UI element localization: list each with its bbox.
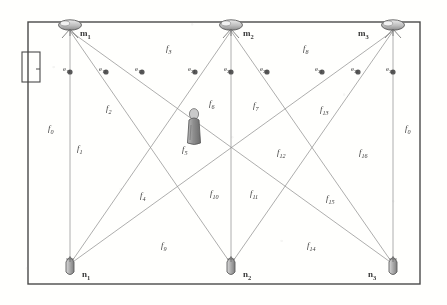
- node-icon-n3: [389, 256, 397, 275]
- edge-label-e13: e13: [135, 66, 143, 75]
- region-label-f1: f1: [77, 144, 82, 155]
- edge-label-e21: e21: [188, 66, 196, 75]
- camera-icon-m1: [59, 20, 82, 38]
- person-figure: [188, 109, 201, 145]
- figure-canvas: m1 m2 m3 n1 n2 n3 e11 e12 e13 e21 e22 e2…: [0, 0, 447, 305]
- region-label-f0-left: f0: [48, 124, 53, 135]
- region-label-f4: f4: [140, 191, 145, 202]
- node-label-n3: n3: [368, 270, 376, 281]
- edge-label-e11: e11: [63, 66, 71, 75]
- region-label-f6: f6: [209, 99, 214, 110]
- edge-label-e23: e23: [260, 66, 268, 75]
- door-icon: [22, 52, 40, 82]
- region-label-f15: f15: [326, 194, 334, 205]
- region-label-f9: f9: [161, 241, 166, 252]
- node-icon-n1: [66, 256, 74, 275]
- region-label-f11: f11: [250, 189, 258, 200]
- region-label-f14: f14: [307, 241, 315, 252]
- camera-icon-m3: [382, 20, 405, 38]
- camera-icon-m2: [220, 20, 243, 38]
- region-label-f2: f2: [106, 104, 111, 115]
- edge-label-e12: e12: [99, 66, 107, 75]
- camera-label-m2: m2: [243, 29, 254, 40]
- region-label-f7: f7: [253, 101, 258, 112]
- region-label-f0-right: f0: [405, 124, 410, 135]
- region-label-f8: f8: [303, 44, 308, 55]
- diagram-svg: [0, 0, 447, 305]
- region-label-f3: f3: [166, 44, 171, 55]
- node-label-n2: n2: [243, 270, 251, 281]
- edge-label-e32: e32: [351, 66, 359, 75]
- edge-label-e31: e31: [315, 66, 323, 75]
- region-label-f12: f12: [277, 148, 285, 159]
- node-label-n1: n1: [82, 270, 90, 281]
- camera-label-m1: m1: [80, 29, 91, 40]
- edge-label-e33: e33: [386, 66, 394, 75]
- node-icon-n2: [227, 256, 235, 275]
- region-label-f13: f13: [320, 105, 328, 116]
- region-label-f16: f16: [359, 148, 367, 159]
- region-label-f10: f10: [210, 189, 218, 200]
- region-label-f5: f5: [182, 145, 187, 156]
- camera-label-m3: m3: [358, 29, 369, 40]
- edge-label-e22: e22: [224, 66, 232, 75]
